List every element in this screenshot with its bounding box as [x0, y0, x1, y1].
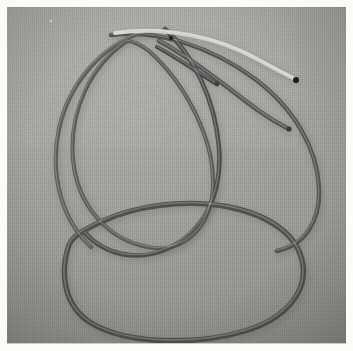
end-gray-right — [286, 126, 291, 131]
cables-illustration — [7, 7, 346, 343]
photograph-frame — [0, 0, 353, 351]
end-light-right — [293, 77, 299, 83]
end-stub-right — [215, 82, 220, 87]
cable-dark-upper-sweep-highlight — [111, 33, 319, 250]
cable-dark-upper-sweep — [111, 34, 319, 251]
end-dark-top — [169, 36, 173, 40]
photograph-image — [7, 7, 346, 343]
cable-shadow-layer — [58, 32, 321, 343]
